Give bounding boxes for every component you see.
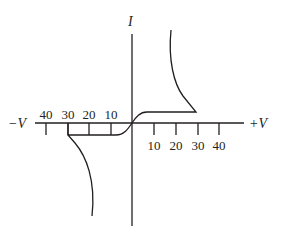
tick-label: 10 bbox=[148, 138, 161, 153]
negative-iv-curve bbox=[68, 123, 132, 216]
tick-label: 20 bbox=[170, 138, 183, 153]
positive-iv-curve bbox=[132, 30, 196, 123]
diac-iv-diagram: I −V +V 10 20 30 40 40 30 20 10 bbox=[0, 0, 283, 234]
negative-tick-labels: 40 30 20 10 bbox=[40, 107, 118, 122]
positive-voltage-label: +V bbox=[249, 116, 268, 131]
tick-label: 20 bbox=[83, 107, 96, 122]
tick-label: 30 bbox=[192, 138, 205, 153]
positive-tick-labels: 10 20 30 40 bbox=[148, 138, 226, 153]
tick-label: 10 bbox=[105, 107, 118, 122]
positive-ticks bbox=[154, 123, 219, 135]
tick-label: 30 bbox=[62, 107, 75, 122]
tick-label: 40 bbox=[213, 138, 226, 153]
current-axis-label: I bbox=[127, 14, 134, 29]
negative-ticks bbox=[46, 123, 111, 135]
tick-label: 40 bbox=[40, 107, 53, 122]
negative-voltage-label: −V bbox=[8, 116, 27, 131]
